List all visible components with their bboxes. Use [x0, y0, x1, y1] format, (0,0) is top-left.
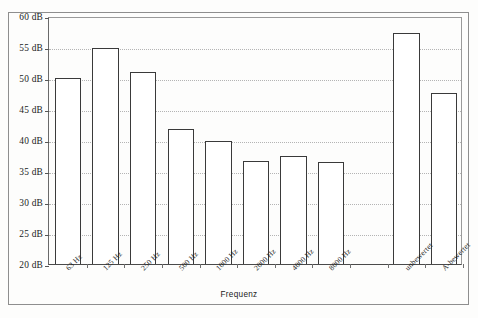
y-axis-tick-mark — [45, 111, 49, 112]
bar — [92, 48, 118, 264]
bar — [205, 141, 231, 264]
bar — [168, 129, 194, 264]
y-axis-tick-label: 40 dB — [19, 136, 43, 146]
y-axis-tick-label: 30 dB — [19, 198, 43, 208]
bar — [55, 78, 81, 264]
bar — [393, 33, 419, 264]
y-axis-tick-label: 50 dB — [19, 74, 43, 84]
y-axis-tick-mark — [45, 235, 49, 236]
y-axis-tick-labels: 60 dB55 dB50 dB45 dB40 dB35 dB30 dB25 dB… — [0, 17, 43, 265]
y-axis-tick-label: 45 dB — [19, 105, 43, 115]
plot-area — [48, 17, 462, 265]
bar-series — [49, 18, 461, 264]
bar — [243, 161, 269, 264]
y-axis-tick-label: 55 dB — [19, 43, 43, 53]
chart-figure: 60 dB55 dB50 dB45 dB40 dB35 dB30 dB25 dB… — [0, 0, 478, 318]
bar — [318, 162, 344, 264]
y-axis-tick-label: 60 dB — [19, 12, 43, 22]
x-axis-tick-mark — [463, 264, 464, 268]
y-axis-tick-mark — [45, 80, 49, 81]
y-axis-tick-mark — [45, 142, 49, 143]
x-axis-title: Frequenz — [0, 290, 478, 299]
x-axis-category-labels: 63 Hz125 Hz250 Hz500 Hz1000 Hz2000 Hz400… — [48, 266, 462, 306]
y-axis-tick-label: 25 dB — [19, 229, 43, 239]
bar — [431, 93, 457, 264]
bar — [130, 72, 156, 264]
bar — [280, 156, 306, 264]
y-axis-tick-label: 35 dB — [19, 167, 43, 177]
y-axis-tick-mark — [45, 18, 49, 19]
y-axis-tick-mark — [45, 49, 49, 50]
y-axis-tick-label: 20 dB — [19, 260, 43, 270]
y-axis-tick-mark — [45, 173, 49, 174]
y-axis-tick-mark — [45, 204, 49, 205]
